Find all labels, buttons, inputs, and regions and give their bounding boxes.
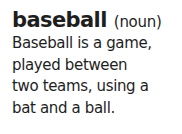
definition-line: two teams, using a: [12, 76, 182, 98]
entry-headline: baseball (noun): [12, 9, 182, 33]
definition-line: played between: [12, 55, 182, 77]
part-of-speech: (noun): [114, 13, 162, 31]
dictionary-entry: baseball (noun) Baseball is a game, play…: [12, 9, 182, 119]
entry-term: baseball: [12, 8, 107, 32]
entry-definition: Baseball is a game, played between two t…: [12, 33, 182, 119]
definition-line: Baseball is a game,: [12, 33, 182, 55]
definition-line: bat and a ball.: [12, 98, 182, 120]
